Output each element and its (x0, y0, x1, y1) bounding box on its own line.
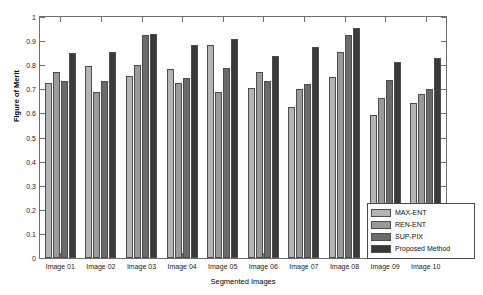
bar-max-ent-image-06 (248, 88, 255, 258)
x-tick-mark (223, 17, 224, 22)
x-tick-label: Image 01 (46, 263, 75, 271)
x-tick-mark (263, 17, 264, 22)
bar-max-ent-image-04 (167, 69, 174, 258)
legend-swatch-icon (371, 209, 391, 217)
legend-item-label: MAX-ENT (395, 209, 427, 217)
x-tick-label: Image 06 (249, 263, 278, 271)
x-tick-label: Image 08 (330, 263, 359, 271)
y-tick-label: 0.5 (26, 134, 36, 141)
x-tick-label: Image 09 (371, 263, 400, 271)
x-tick-mark (304, 17, 305, 22)
legend-item-label: REN-ENT (395, 221, 426, 229)
x-tick-label: Image 10 (411, 263, 440, 271)
bar-proposed-method-image-03 (150, 34, 157, 258)
legend-item-label: Proposed Method (395, 245, 450, 253)
y-tick-label: 0.3 (26, 182, 36, 189)
y-tick-label: 0.2 (26, 206, 36, 213)
bar-sup-pix-image-02 (101, 81, 108, 258)
bar-proposed-method-image-01 (69, 53, 76, 258)
legend-swatch-icon (371, 233, 391, 241)
bar-ren-ent-image-03 (134, 65, 141, 258)
y-tick-mark-right (441, 138, 446, 139)
y-tick-mark-right (441, 41, 446, 42)
x-tick-mark (60, 17, 61, 22)
bar-sup-pix-image-07 (304, 84, 311, 258)
x-tick-label: Image 04 (168, 263, 197, 271)
x-tick-label: Image 02 (86, 263, 115, 271)
bar-max-ent-image-02 (85, 66, 92, 258)
legend-item-ren-ent[interactable]: REN-ENT (371, 219, 471, 231)
bar-ren-ent-image-04 (175, 83, 182, 258)
bar-sup-pix-image-05 (223, 68, 230, 258)
y-tick-mark (40, 258, 45, 259)
bar-max-ent-image-03 (126, 76, 133, 258)
y-tick-label: 0 (32, 255, 36, 262)
y-tick-label: 0.6 (26, 110, 36, 117)
x-tick-mark (385, 17, 386, 22)
y-tick-label: 0.8 (26, 62, 36, 69)
x-tick-mark (142, 17, 143, 22)
x-axis-title: Segmented Images (39, 277, 447, 286)
bar-max-ent-image-07 (288, 107, 295, 258)
y-tick-mark (40, 41, 45, 42)
bar-max-ent-image-08 (329, 77, 336, 258)
legend-item-sup-pix[interactable]: SUP-PIX (371, 231, 471, 243)
y-tick-label: 0.9 (26, 38, 36, 45)
bar-proposed-method-image-07 (312, 47, 319, 258)
y-tick-mark (40, 65, 45, 66)
legend-item-proposed-method[interactable]: Proposed Method (371, 243, 471, 255)
bar-max-ent-image-01 (45, 83, 52, 258)
y-axis-title: Figure of Merit (13, 26, 21, 166)
bar-sup-pix-image-04 (183, 78, 190, 258)
bar-proposed-method-image-02 (109, 52, 116, 258)
legend-swatch-icon (371, 221, 391, 229)
bar-sup-pix-image-08 (345, 35, 352, 258)
bar-max-ent-image-05 (207, 45, 214, 258)
bar-ren-ent-image-05 (215, 92, 222, 258)
bar-proposed-method-image-08 (353, 28, 360, 258)
bar-sup-pix-image-01 (61, 81, 68, 258)
x-tick-mark (426, 17, 427, 22)
legend-item-max-ent[interactable]: MAX-ENT (371, 207, 471, 219)
y-tick-mark-right (441, 65, 446, 66)
y-tick-mark-right (441, 186, 446, 187)
x-tick-label: Image 07 (289, 263, 318, 271)
figure-canvas: Figure of Merit 00.10.20.30.40.50.60.70.… (0, 0, 483, 295)
y-tick-label: 0.1 (26, 230, 36, 237)
bar-ren-ent-image-07 (296, 89, 303, 258)
y-tick-mark-right (441, 89, 446, 90)
bar-ren-ent-image-06 (256, 72, 263, 258)
bar-sup-pix-image-06 (264, 81, 271, 258)
y-tick-label: 0.7 (26, 86, 36, 93)
legend-swatch-icon (371, 245, 391, 253)
bar-proposed-method-image-04 (191, 45, 198, 258)
x-tick-label: Image 05 (208, 263, 237, 271)
x-tick-label: Image 03 (127, 263, 156, 271)
bar-proposed-method-image-06 (272, 56, 279, 258)
y-tick-mark-right (441, 113, 446, 114)
y-tick-mark-right (441, 17, 446, 18)
chart-legend: MAX-ENTREN-ENTSUP-PIXProposed Method (367, 203, 475, 259)
bar-ren-ent-image-02 (93, 92, 100, 258)
x-tick-mark (345, 17, 346, 22)
y-tick-label: 1 (32, 14, 36, 21)
bar-proposed-method-image-05 (231, 39, 238, 258)
x-tick-mark (101, 17, 102, 22)
x-tick-mark (182, 17, 183, 22)
bar-ren-ent-image-01 (53, 72, 60, 258)
legend-item-label: SUP-PIX (395, 233, 423, 241)
bar-ren-ent-image-08 (337, 52, 344, 258)
y-tick-label: 0.4 (26, 158, 36, 165)
bar-sup-pix-image-03 (142, 35, 149, 258)
y-tick-mark (40, 17, 45, 18)
y-tick-mark-right (441, 162, 446, 163)
